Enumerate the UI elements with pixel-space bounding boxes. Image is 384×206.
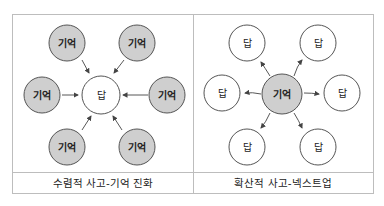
node-label: 기억 [58, 141, 76, 153]
node-answer-top-right: 답 [300, 25, 336, 61]
node-label: 기억 [158, 89, 176, 101]
node-label: 답 [243, 38, 252, 49]
node-label: 답 [314, 142, 323, 153]
node-label: 기억 [273, 88, 291, 100]
node-label: 답 [218, 88, 227, 99]
node-answer-top-left: 답 [229, 25, 265, 61]
node-label: 기억 [58, 37, 76, 49]
node-memory-bottom-left: 기억 [49, 129, 85, 165]
left-panel-convergent: 기억 기억 기억 기억 기억 기억 답 수렴적 사고-기억 진화 [24, 25, 185, 189]
node-label: 답 [338, 88, 347, 99]
node-label: 기억 [128, 37, 146, 49]
node-memory-top-right: 기억 [119, 25, 155, 61]
node-answer-left: 답 [204, 75, 240, 111]
node-label: 기억 [33, 89, 51, 101]
diagram-canvas: 기억 기억 기억 기억 기억 기억 답 수렴적 사고-기억 진화 [0, 0, 384, 206]
node-memory-bottom-right: 기억 [119, 129, 155, 165]
node-label: 기억 [128, 141, 146, 153]
node-label: 답 [97, 90, 106, 101]
node-answer-bottom-right: 답 [300, 129, 336, 165]
node-memory-right: 기억 [149, 77, 185, 113]
node-memory-left: 기억 [24, 77, 60, 113]
right-panel-divergent: 답 답 답 답 답 답 기억 확산적 사고-넥스트업 [204, 25, 360, 189]
node-memory-center: 기억 [262, 74, 302, 114]
node-answer-right: 답 [324, 75, 360, 111]
node-memory-top-left: 기억 [49, 25, 85, 61]
node-answer-bottom-left: 답 [229, 129, 265, 165]
node-answer-center: 답 [82, 76, 120, 114]
node-label: 답 [314, 38, 323, 49]
node-label: 답 [243, 142, 252, 153]
caption-divergent: 확산적 사고-넥스트업 [234, 177, 331, 189]
caption-convergent: 수렴적 사고-기억 진화 [53, 177, 153, 189]
